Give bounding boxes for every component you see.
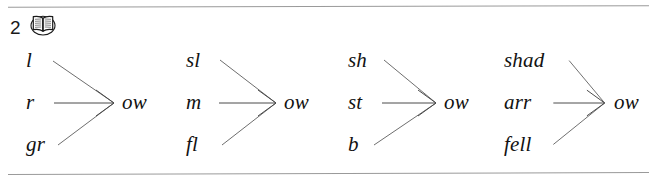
rime-label: ow [614, 92, 639, 113]
worksheet-page: 2 [0, 0, 657, 185]
open-book-icon [30, 14, 56, 40]
rime-label: ow [122, 92, 147, 113]
arrow-connector [26, 48, 176, 160]
rime-label: ow [284, 92, 309, 113]
word-group: sh st b ow [348, 48, 498, 160]
divider-top [8, 5, 649, 7]
arrow-connector [348, 48, 498, 160]
divider-bottom [8, 172, 649, 175]
word-group: l r gr ow [26, 48, 176, 160]
word-group: sl m fl ow [186, 48, 336, 160]
exercise-number: 2 [10, 18, 21, 37]
exercise-header: 2 [10, 14, 56, 40]
word-group: shad arr fell ow [504, 48, 656, 160]
rime-label: ow [444, 92, 469, 113]
arrow-connector [186, 48, 336, 160]
